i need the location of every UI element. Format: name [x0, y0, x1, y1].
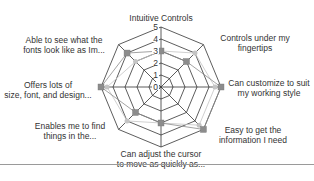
- data-point-marker: [183, 59, 189, 65]
- bottom-divider: [0, 164, 314, 165]
- data-point-marker: [158, 120, 164, 126]
- axis-label-can-customize: Can customize to suit my working style: [224, 78, 314, 98]
- axis-label-line1: Able to see what the: [14, 35, 114, 45]
- axis-label-intuitive-controls: Intuitive Controls: [121, 13, 201, 23]
- axis-label-line2: size, font, and design...: [0, 90, 96, 100]
- axis-label-line1: Can customize to suit: [224, 78, 314, 88]
- data-point-marker: [98, 84, 104, 90]
- axis-label-offers-lots-of: Offers lots of size, font, and design...: [0, 80, 96, 100]
- axis-label-line2: fingertips: [210, 43, 300, 53]
- axis-label-line2: things in the...: [25, 131, 115, 141]
- tick-label: 3: [153, 46, 158, 56]
- data-point-marker: [124, 50, 130, 56]
- axis-label-line2: my working style: [224, 88, 314, 98]
- tick-label: 1: [153, 70, 158, 80]
- axis-label-controls-under-fingertips: Controls under my fingertips: [210, 33, 300, 53]
- data-point-marker: [105, 85, 110, 90]
- axis-label-line1: Offers lots of: [0, 80, 96, 90]
- data-point-marker: [213, 85, 218, 90]
- axis-label-line2: information I need: [203, 135, 303, 145]
- tick-label: 4: [153, 34, 158, 44]
- data-point-marker: [133, 59, 138, 64]
- axis-label-line2: fonts look like as Im...: [14, 45, 114, 55]
- axis-label-line1: Easy to get the: [203, 125, 303, 135]
- axis-label-line1: Can adjust the cursor: [111, 149, 211, 159]
- tick-label: 0: [153, 82, 158, 92]
- axis-label-line1: Enables me to find: [25, 121, 115, 131]
- radar-tick-labels: 012345: [152, 22, 159, 92]
- axis-label-easy-to-get-info: Easy to get the information I need: [203, 125, 303, 145]
- data-point-marker: [125, 118, 130, 123]
- tick-label: 5: [153, 22, 158, 32]
- axis-label-line1: Controls under my: [210, 33, 300, 43]
- axis-label-able-to-see-fonts: Able to see what the fonts look like as …: [14, 35, 114, 55]
- axis-label-enables-to-find: Enables me to find things in the...: [25, 121, 115, 141]
- data-point-marker: [192, 51, 197, 56]
- tick-label: 2: [153, 58, 158, 68]
- axis-label-text: Intuitive Controls: [129, 13, 192, 23]
- data-point-marker: [133, 109, 139, 115]
- axis-label-can-adjust-cursor: Can adjust the cursor to move as quickly…: [111, 149, 211, 169]
